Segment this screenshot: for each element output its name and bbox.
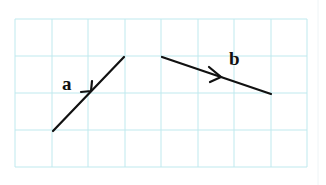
grid — [15, 19, 307, 167]
vector-a-label: a — [62, 73, 72, 94]
vector-grid-diagram: a b — [0, 0, 326, 185]
vector-b-label: b — [229, 48, 240, 69]
vector-a-arrowhead-icon — [81, 81, 92, 92]
vector-b: b — [162, 48, 271, 94]
vector-b-line — [162, 57, 271, 94]
